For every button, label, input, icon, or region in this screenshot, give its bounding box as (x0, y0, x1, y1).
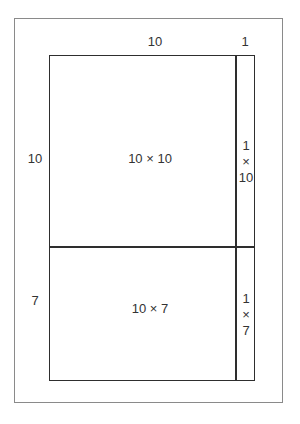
cell-1x10-label: 1 × 10 (237, 138, 255, 186)
horizontal-divider (49, 246, 255, 248)
top-width-label-1: 1 (238, 34, 252, 49)
cell-1x7-label: 1 × 7 (237, 291, 255, 339)
side-height-label-7: 7 (22, 293, 48, 308)
cell-1x10-times: × (242, 154, 250, 170)
area-model-rectangle (49, 55, 255, 381)
cell-1x10-factor-a: 1 (242, 138, 249, 154)
cell-10x10-label: 10 × 10 (110, 151, 190, 166)
cell-10x7-label: 10 × 7 (110, 301, 190, 316)
cell-1x7-factor-b: 7 (242, 323, 249, 339)
side-height-label-10: 10 (22, 151, 48, 166)
cell-1x7-factor-a: 1 (242, 291, 249, 307)
cell-1x7-times: × (242, 307, 250, 323)
cell-1x10-factor-b: 10 (239, 170, 253, 186)
top-width-label-10: 10 (142, 34, 168, 49)
